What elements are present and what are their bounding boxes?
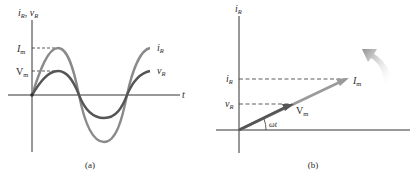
vm-phasor — [239, 107, 286, 130]
panel-b-caption: (b) — [308, 160, 319, 170]
rotation-arrow-icon — [362, 49, 392, 84]
angle-label: ωt — [269, 120, 278, 129]
im-phasor-label: Im — [352, 75, 361, 87]
panel-b-phasors: iR iR vR Im Vm ωt (b) — [216, 3, 410, 170]
y-axis-label: iR — [235, 3, 242, 15]
im-label: Im — [16, 43, 25, 55]
ir-tick-label: iR — [226, 73, 233, 85]
panel-a-waveforms: iR, vR Im Vm iR vR t (a) — [8, 7, 185, 170]
curve-i-label: iR — [157, 42, 164, 54]
x-axis-label: t — [182, 89, 185, 100]
vr-tick-label: vR — [225, 98, 233, 110]
im-arrowhead — [336, 78, 349, 86]
y-axis-label: iR, vR — [18, 7, 38, 19]
panel-a-caption: (a) — [85, 160, 95, 170]
angle-arc — [264, 119, 266, 130]
curve-v-label: vR — [157, 65, 165, 77]
vm-phasor-label: Vm — [296, 105, 308, 117]
vm-label: Vm — [16, 66, 28, 78]
ac-resistor-diagram: iR, vR Im Vm iR vR t (a) — [0, 0, 413, 183]
